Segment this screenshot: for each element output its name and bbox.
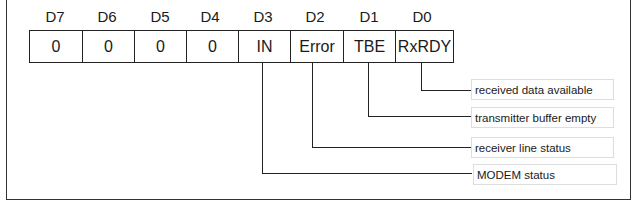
bit-cell-d2: Error [290, 30, 344, 63]
bit-label-d0: D0 [396, 8, 448, 25]
bit-cell-d5: 0 [134, 30, 187, 63]
bit-cell-d7: 0 [29, 30, 83, 63]
bit-cell-d4: 0 [186, 30, 239, 63]
bit-cell-d3: IN [238, 30, 291, 63]
bit-cell-d0: RxRDY [395, 30, 454, 63]
connector-d1-horizontal [368, 116, 471, 117]
description-d3: MODEM status [473, 164, 617, 185]
connector-d3-vertical [262, 62, 263, 174]
bit-label-d5: D5 [134, 8, 186, 25]
bit-label-d6: D6 [81, 8, 133, 25]
bit-label-d2: D2 [289, 8, 341, 25]
bit-label-d7: D7 [29, 8, 81, 25]
bit-label-d3: D3 [237, 8, 289, 25]
description-d2: receiver line status [471, 137, 614, 158]
description-d0: received data available [471, 79, 614, 100]
connector-d3-horizontal [262, 173, 472, 174]
bit-label-d4: D4 [184, 8, 236, 25]
connector-d1-vertical [368, 62, 369, 117]
bit-cell-d1: TBE [343, 30, 396, 63]
connector-d0-horizontal [421, 90, 471, 91]
connector-d2-vertical [312, 62, 313, 148]
bit-label-d1: D1 [343, 8, 395, 25]
bit-cell-d6: 0 [82, 30, 135, 63]
description-d1: transmitter buffer empty [471, 107, 614, 128]
connector-d0-vertical [421, 62, 422, 91]
connector-d2-horizontal [312, 147, 471, 148]
